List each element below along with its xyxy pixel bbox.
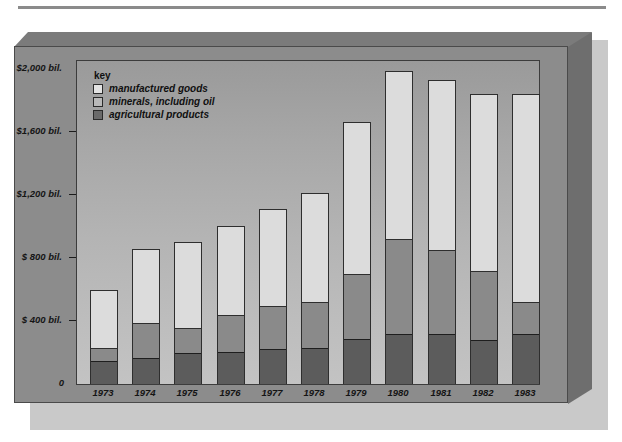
bar-1973 <box>90 290 118 384</box>
legend-item-agricultural: agricultural products <box>93 109 215 120</box>
legend-swatch-manufactured-goods <box>93 84 103 94</box>
bar-segment-manufactured-goods <box>513 95 539 302</box>
bar-segment-minerals <box>471 271 497 340</box>
bar-1974 <box>132 249 160 384</box>
legend-label-minerals: minerals, including oil <box>109 96 215 107</box>
x-axis-label-1976: 1976 <box>208 387 252 398</box>
bar-1977 <box>259 209 287 384</box>
bar-segment-manufactured-goods <box>344 123 370 274</box>
bar-segment-manufactured-goods <box>175 243 201 328</box>
y-axis-tick-mark <box>69 194 76 195</box>
y-axis-label: $1,200 bil. <box>17 189 62 199</box>
x-axis-label-1979: 1979 <box>334 387 378 398</box>
bar-segment-minerals <box>91 348 117 361</box>
x-axis-label-1983: 1983 <box>503 387 547 398</box>
bar-segment-minerals <box>429 250 455 334</box>
bar-1980 <box>385 71 413 384</box>
bar-segment-agricultural-products <box>91 361 117 384</box>
x-axis-label-1982: 1982 <box>461 387 505 398</box>
bar-1983 <box>512 94 540 384</box>
bar-1979 <box>343 122 371 384</box>
plot-area: key manufactured goods minerals, includi… <box>76 60 540 385</box>
frame-top-bevel <box>14 32 592 47</box>
y-axis-tick-mark <box>69 257 76 258</box>
y-axis: 0$ 400 bil.$ 800 bil.$1,200 bil.$1,600 b… <box>0 0 72 442</box>
bar-segment-agricultural-products <box>386 334 412 384</box>
y-axis-label: $1,600 bil. <box>17 126 62 136</box>
legend-title: key <box>94 70 215 81</box>
bar-1982 <box>470 94 498 384</box>
bar-segment-minerals <box>302 302 328 348</box>
bar-segment-agricultural-products <box>133 358 159 384</box>
bar-segment-manufactured-goods <box>133 250 159 323</box>
y-axis-tick-mark <box>69 320 76 321</box>
frame-right-bevel <box>568 32 592 404</box>
bar-segment-manufactured-goods <box>386 72 412 239</box>
y-axis-label: $2,000 bil. <box>17 63 62 73</box>
y-axis-label: $ 800 bil. <box>22 252 62 262</box>
legend-item-manufactured-goods: manufactured goods <box>93 83 215 94</box>
bar-segment-minerals <box>218 315 244 352</box>
legend-item-minerals: minerals, including oil <box>93 96 215 107</box>
bar-segment-agricultural-products <box>175 353 201 384</box>
bar-segment-minerals <box>260 306 286 348</box>
bar-segment-minerals <box>133 323 159 358</box>
bar-segment-manufactured-goods <box>260 210 286 306</box>
bar-segment-minerals <box>175 328 201 353</box>
bar-segment-minerals <box>344 274 370 338</box>
x-axis-label-1981: 1981 <box>419 387 463 398</box>
legend-label-agricultural: agricultural products <box>109 109 209 120</box>
x-axis-label-1975: 1975 <box>165 387 209 398</box>
x-axis-label-1980: 1980 <box>376 387 420 398</box>
y-axis-tick-mark <box>69 131 76 132</box>
bar-segment-minerals <box>386 239 412 333</box>
x-axis-label-1978: 1978 <box>292 387 336 398</box>
bar-segment-manufactured-goods <box>429 81 455 250</box>
bar-segment-manufactured-goods <box>471 95 497 271</box>
bar-segment-agricultural-products <box>260 349 286 384</box>
x-axis-label-1977: 1977 <box>250 387 294 398</box>
bar-segment-agricultural-products <box>429 334 455 384</box>
bar-segment-agricultural-products <box>302 348 328 384</box>
bar-segment-manufactured-goods <box>91 291 117 348</box>
bar-segment-agricultural-products <box>218 352 244 384</box>
bar-1975 <box>174 242 202 384</box>
legend-swatch-agricultural <box>93 110 103 120</box>
bar-segment-minerals <box>513 302 539 333</box>
legend-swatch-minerals <box>93 97 103 107</box>
y-axis-label: 0 <box>59 378 64 388</box>
x-axis-label-1974: 1974 <box>123 387 167 398</box>
bar-1981 <box>428 80 456 384</box>
legend-label-manufactured-goods: manufactured goods <box>109 83 208 94</box>
bar-segment-agricultural-products <box>344 339 370 384</box>
bar-segment-manufactured-goods <box>218 227 244 315</box>
bar-segment-agricultural-products <box>513 334 539 384</box>
chart-legend: key manufactured goods minerals, includi… <box>87 67 223 125</box>
y-axis-label: $ 400 bil. <box>22 315 62 325</box>
page-top-rule <box>18 6 606 9</box>
bar-segment-manufactured-goods <box>302 194 328 302</box>
x-axis-label-1973: 1973 <box>81 387 125 398</box>
bar-1976 <box>217 226 245 384</box>
bar-1978 <box>301 193 329 384</box>
x-axis: 1973197419751976197719781979198019811982… <box>76 387 540 405</box>
bar-segment-agricultural-products <box>471 340 497 384</box>
